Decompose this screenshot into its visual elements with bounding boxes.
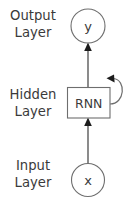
edge-hidden-self-loop-arrowhead (107, 75, 115, 83)
output-node-label: y (84, 19, 92, 34)
input-node-label: x (84, 173, 92, 188)
edge-hidden-to-output-arrowhead (84, 43, 92, 52)
edge-hidden-self-loop-path (110, 79, 122, 105)
hidden-node-label: RNN (75, 96, 102, 111)
diagram-canvas: y RNN x (0, 0, 133, 205)
rnn-layer-diagram: Output Layer Hidden Layer Input Layer y … (0, 0, 133, 205)
edge-input-to-hidden-arrowhead (84, 118, 92, 127)
